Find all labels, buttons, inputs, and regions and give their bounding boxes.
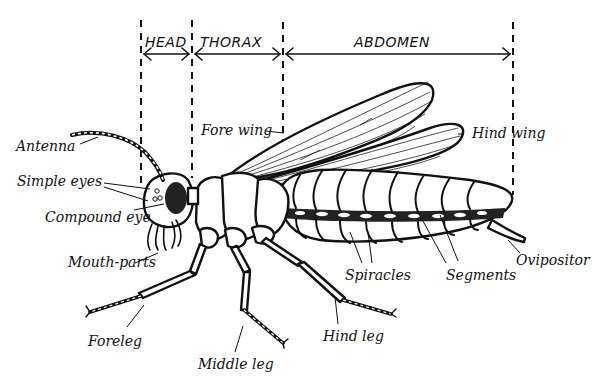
thorax: [196, 173, 288, 248]
label-hind-leg: Hind leg: [322, 328, 384, 344]
label-simple-eyes: Simple eyes: [17, 173, 102, 189]
diagram-svg: HEAD THORAX ABDOMEN: [0, 0, 605, 383]
head: [144, 173, 198, 250]
label-foreleg: Foreleg: [87, 333, 142, 349]
section-label-thorax: THORAX: [200, 34, 262, 50]
section-arrows: [144, 48, 510, 60]
section-label-head: HEAD: [145, 34, 187, 50]
middle-leg: [231, 246, 288, 348]
section-label-abdomen: ABDOMEN: [353, 34, 430, 50]
ovipositor: [488, 220, 525, 242]
label-mouth-parts: Mouth-parts: [67, 254, 156, 270]
label-antenna: Antenna: [14, 138, 75, 154]
label-ovipositor: Ovipositor: [516, 252, 591, 268]
label-fore-wing: Fore wing: [200, 122, 272, 138]
label-hind-wing: Hind wing: [471, 125, 546, 141]
label-segments: Segments: [446, 267, 516, 283]
label-middle-leg: Middle leg: [197, 356, 274, 372]
label-spiracles: Spiracles: [345, 267, 411, 283]
label-compound-eye: Compound eye: [45, 209, 151, 225]
compound-eye: [165, 182, 187, 214]
abdomen: [280, 170, 525, 243]
insect-anatomy-diagram: HEAD THORAX ABDOMEN: [0, 0, 605, 383]
